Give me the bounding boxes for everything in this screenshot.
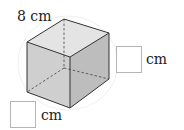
answer-box-right[interactable] [116, 46, 142, 73]
unit-label-right: cm [146, 52, 167, 66]
answer-box-bottom-left[interactable] [10, 101, 36, 128]
unit-label-bottom-left: cm [41, 108, 62, 122]
edge-length-label: 8 cm [17, 9, 51, 23]
